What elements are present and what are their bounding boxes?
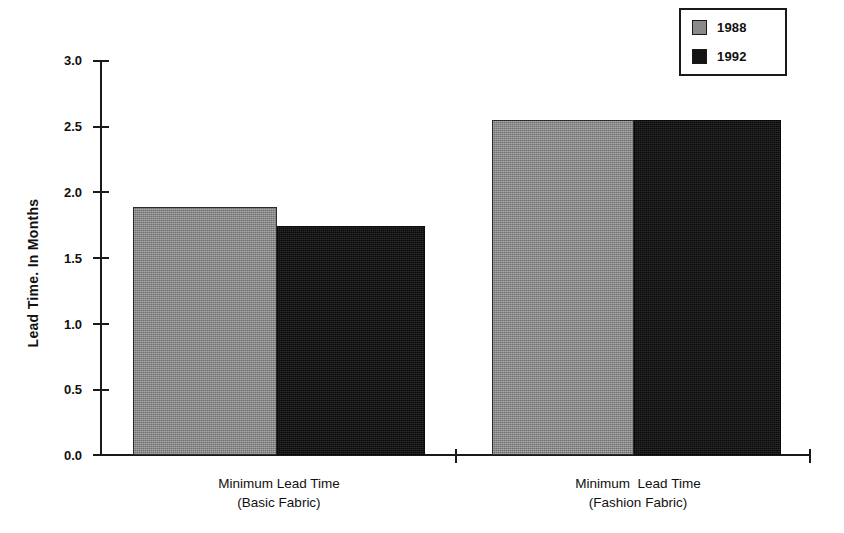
y-tick-label-0-5: 0.5	[42, 383, 82, 396]
bar-fashion-fabric-1992	[634, 120, 781, 455]
x-tick-axis-end	[809, 449, 811, 463]
y-tick-label-2-0: 2.0	[42, 186, 82, 199]
legend-label-1988: 1988	[717, 21, 747, 34]
bar-basic-fabric-1988	[133, 207, 277, 455]
legend-entry-1992: 1992	[692, 49, 747, 64]
y-tick-label-3-0: 3.0	[42, 54, 82, 67]
legend-swatch-icon-1992	[692, 49, 707, 64]
y-tick-label-wrap: 0.0	[34, 449, 82, 463]
category-label-line1: Minimum Lead Time	[526, 474, 750, 493]
bar-basic-fabric-1992	[277, 226, 425, 455]
category-label-line2: (Fashion Fabric)	[526, 493, 750, 512]
bar-fashion-fabric-1988	[492, 120, 634, 455]
legend-entry-1988: 1988	[692, 20, 747, 35]
y-axis-line	[100, 60, 102, 456]
category-label-line2: (Basic Fabric)	[169, 493, 389, 512]
category-label-line1: Minimum Lead Time	[169, 474, 389, 493]
x-category-label-basic-fabric: Minimum Lead Time (Basic Fabric)	[169, 474, 389, 512]
y-tick-label-wrap: 3.0	[34, 54, 82, 68]
y-tick-label-wrap: 2.5	[34, 120, 82, 134]
y-tick-label-wrap: 0.5	[34, 383, 82, 397]
y-tick-label-wrap: 1.5	[34, 252, 82, 266]
y-tick-label-1-0: 1.0	[42, 318, 82, 331]
bar-chart: Lead Time. In Months 3.0 2.5 2.0 1.5 1.0…	[0, 0, 844, 533]
y-tick-label-1-5: 1.5	[42, 252, 82, 265]
legend: 1988 1992	[679, 8, 787, 76]
y-tick-label-0-0: 0.0	[42, 449, 82, 462]
y-tick-label-wrap: 1.0	[34, 318, 82, 332]
y-tick-label-2-5: 2.5	[42, 120, 82, 133]
x-category-label-fashion-fabric: Minimum Lead Time (Fashion Fabric)	[526, 474, 750, 512]
x-tick-category-separator	[455, 449, 457, 463]
legend-label-1992: 1992	[717, 50, 747, 63]
legend-swatch-icon-1988	[692, 20, 707, 35]
y-tick-label-wrap: 2.0	[34, 186, 82, 200]
